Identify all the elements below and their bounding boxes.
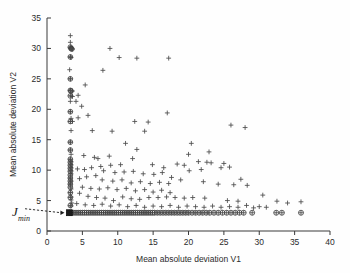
- marker-plus: [105, 185, 110, 190]
- marker-plus: [161, 165, 166, 170]
- marker-plus: [202, 205, 207, 210]
- marker-plus: [201, 179, 206, 184]
- y-tick-label: 25: [32, 74, 42, 84]
- marker-plus: [159, 188, 164, 193]
- marker-plus: [231, 182, 236, 187]
- annotation-arrowhead: [60, 211, 64, 215]
- marker-plus: [151, 204, 156, 209]
- marker-plus: [207, 149, 212, 154]
- marker-plus: [83, 83, 88, 88]
- marker-circle-plus: [279, 210, 284, 215]
- marker-plus: [151, 190, 156, 195]
- marker-plus: [219, 205, 224, 210]
- marker-plus: [156, 195, 161, 200]
- marker-circle-plus: [68, 93, 73, 98]
- marker-circle-plus: [68, 55, 73, 60]
- marker-plus: [275, 199, 280, 204]
- marker-circle-plus: [68, 195, 73, 200]
- marker-plus: [225, 198, 230, 203]
- marker-plus: [236, 205, 241, 210]
- marker-plus: [187, 168, 192, 173]
- marker-plus: [165, 111, 170, 116]
- marker-plus: [176, 205, 181, 210]
- x-tick-label: 5: [80, 237, 85, 247]
- axis-spines: [47, 18, 330, 231]
- x-tick-label: 0: [45, 237, 50, 247]
- marker-plus: [227, 204, 232, 209]
- marker-plus: [117, 55, 122, 60]
- marker-plus: [115, 187, 120, 192]
- marker-plus: [129, 181, 134, 186]
- y-tick-label: 0: [36, 226, 41, 236]
- marker-plus: [196, 159, 201, 164]
- marker-plus: [86, 113, 91, 118]
- marker-plus: [169, 175, 174, 180]
- x-tick-label: 10: [113, 237, 123, 247]
- marker-plus: [168, 203, 173, 208]
- marker-plus: [185, 204, 190, 209]
- marker-circle-plus: [68, 190, 73, 195]
- marker-plus: [141, 171, 146, 176]
- marker-plus: [142, 129, 147, 134]
- marker-plus: [117, 202, 122, 207]
- marker-plus: [69, 128, 74, 133]
- marker-plus: [137, 197, 142, 202]
- marker-plus: [134, 56, 139, 61]
- marker-plus: [79, 104, 84, 109]
- marker-plus: [238, 177, 243, 182]
- marker-plus: [68, 99, 73, 104]
- marker-circle-plus: [68, 119, 73, 124]
- x-tick-label: 25: [219, 237, 229, 247]
- marker-plus: [159, 204, 164, 209]
- marker-plus: [76, 93, 81, 98]
- marker-plus: [166, 181, 171, 186]
- marker-circle-plus: [298, 210, 303, 215]
- marker-circle-plus: [274, 210, 279, 215]
- marker-plus: [146, 195, 151, 200]
- marker-plus: [91, 203, 96, 208]
- marker-plus: [103, 196, 108, 201]
- marker-plus: [75, 167, 80, 172]
- marker-plus: [175, 162, 180, 167]
- marker-plus: [142, 187, 147, 192]
- y-tick-label: 15: [32, 135, 42, 145]
- marker-plus: [173, 195, 178, 200]
- marker-plus: [299, 199, 304, 204]
- marker-plus: [88, 186, 93, 191]
- marker-plus: [132, 119, 137, 124]
- marker-plus: [134, 203, 139, 208]
- marker-plus: [243, 125, 248, 130]
- marker-plus: [204, 160, 209, 165]
- y-tick-label: 20: [32, 104, 42, 114]
- marker-plus: [100, 68, 105, 73]
- x-axis-label: Mean absolute deviation V1: [136, 254, 241, 264]
- x-tick-label: 35: [290, 237, 300, 247]
- marker-plus: [118, 162, 123, 167]
- marker-plus: [227, 165, 232, 170]
- marker-plus: [76, 115, 81, 120]
- marker-circle-plus: [68, 76, 73, 81]
- marker-plus: [82, 167, 87, 172]
- marker-plus: [182, 196, 187, 201]
- annotation-arrow: [25, 209, 61, 213]
- marker-plus: [68, 33, 73, 38]
- marker-plus: [89, 165, 94, 170]
- marker-plus: [182, 163, 187, 168]
- marker-plus: [113, 170, 118, 175]
- marker-plus: [264, 205, 269, 210]
- marker-plus: [199, 167, 204, 172]
- marker-plus: [68, 40, 73, 45]
- annotation-layer: Jmin: [12, 204, 64, 223]
- x-tick-label: 30: [255, 237, 265, 247]
- marker-plus: [67, 67, 72, 72]
- marker-plus: [148, 181, 153, 186]
- marker-plus: [257, 204, 262, 209]
- marker-plus: [84, 174, 89, 179]
- marker-plus: [202, 196, 207, 201]
- marker-plus: [190, 195, 195, 200]
- marker-plus: [166, 56, 171, 61]
- marker-circle-plus: [68, 185, 73, 190]
- marker-plus: [186, 152, 191, 157]
- y-axis-label: Mean absolute deviation V2: [8, 72, 18, 177]
- marker-plus: [129, 196, 134, 201]
